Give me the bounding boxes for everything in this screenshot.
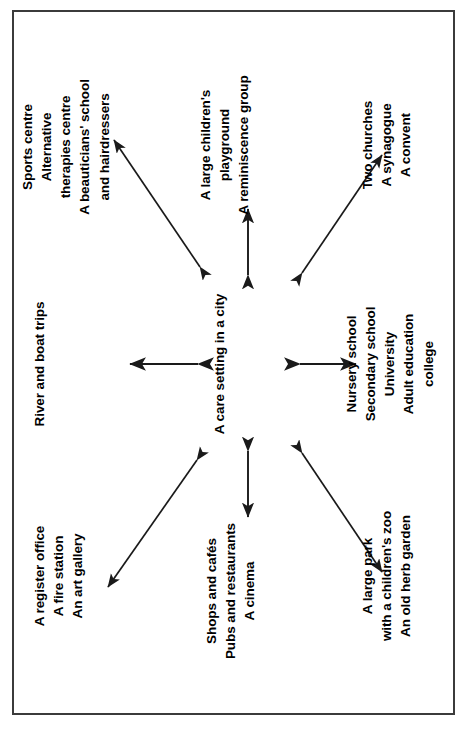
node-wellbeing-services[interactable]: Sports centre Alternative therapies cent…	[18, 59, 114, 235]
node-civic-amenities[interactable]: A register office A fire station An art …	[30, 501, 87, 651]
diagram-frame-border: A register office A fire station An art …	[12, 10, 455, 715]
rotated-diagram-stage: A register office A fire station An art …	[12, 10, 455, 715]
diagram-page: A register office A fire station An art …	[0, 0, 470, 733]
node-waterways[interactable]: River and boat trips	[30, 289, 49, 439]
node-education[interactable]: Nursery school Secondary school Universi…	[342, 281, 438, 447]
node-places-of-worship[interactable]: Two churches A synagogue A convent	[358, 75, 415, 215]
node-center-care-setting[interactable]: A care setting in a city	[210, 289, 229, 439]
node-shops-and-leisure[interactable]: Shops and cafés Pubs and restaurants A c…	[202, 505, 259, 677]
diagram-canvas: A register office A fire station An art …	[12, 10, 455, 715]
connector-to-wellbeing-services	[114, 140, 200, 267]
node-children-and-memory[interactable]: A large children's playground A reminisc…	[196, 65, 253, 225]
node-parks-and-gardens[interactable]: A large park with a children's zoo An ol…	[358, 491, 415, 661]
connector-to-civic-amenities	[108, 460, 197, 587]
